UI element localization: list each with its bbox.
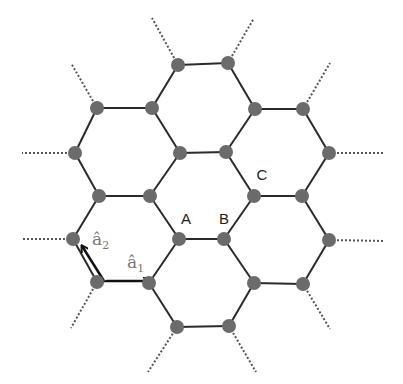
dangling-bond xyxy=(228,18,254,63)
lattice-bond xyxy=(150,196,179,239)
lattice-site xyxy=(173,146,187,160)
site-label-A: A xyxy=(181,210,191,227)
site-label-B: B xyxy=(219,210,229,227)
lattice-site xyxy=(221,56,235,70)
dangling-bond xyxy=(71,63,97,108)
lattice-site xyxy=(172,232,186,246)
lattice-site xyxy=(170,320,184,334)
lattice-site xyxy=(92,189,106,203)
lattice-site xyxy=(222,319,236,333)
lattice-bond xyxy=(224,239,254,283)
lattice-site xyxy=(322,233,336,247)
lattice-site xyxy=(296,277,310,291)
lattice-site xyxy=(68,146,82,160)
vector-a1-label: â1 xyxy=(127,252,144,275)
lattice-bond xyxy=(303,109,329,153)
lattice-site xyxy=(219,145,233,159)
vector-a2-label: â2 xyxy=(92,229,109,252)
lattice-bond xyxy=(178,63,228,65)
site-labels: â1â2ABC xyxy=(92,166,268,275)
lattice-bond xyxy=(226,152,254,196)
lattice-bond xyxy=(152,65,178,108)
lattice-bond xyxy=(229,283,254,326)
lattice-bond xyxy=(302,153,329,196)
dangling-bond xyxy=(148,327,177,372)
lattice-site xyxy=(90,101,104,115)
lattice-site xyxy=(171,58,185,72)
lattice-bond xyxy=(177,326,229,327)
lattice-site xyxy=(296,102,310,116)
lattice-bond xyxy=(75,153,99,196)
dangling-bond xyxy=(303,284,330,329)
dangling-bond xyxy=(303,63,330,109)
lattice-site xyxy=(90,275,104,289)
lattice-bond xyxy=(228,63,255,109)
dangling-bond xyxy=(229,326,256,372)
site-label-C: C xyxy=(257,166,268,183)
lattice-site xyxy=(217,232,231,246)
lattice-bond xyxy=(302,196,329,240)
lattice-site xyxy=(143,189,157,203)
dangling-bonds xyxy=(22,18,385,372)
lattice-bond xyxy=(150,153,180,196)
dangling-bond xyxy=(329,240,385,241)
lattice-bond xyxy=(149,283,177,327)
lattice-bond xyxy=(303,240,329,284)
lattice-bond xyxy=(75,108,97,153)
lattice-bond xyxy=(226,109,255,152)
lattice-bond xyxy=(152,108,180,153)
lattice-site xyxy=(322,146,336,160)
lattice-bonds xyxy=(73,63,329,327)
lattice-bond xyxy=(254,283,303,284)
lattice-site xyxy=(142,276,156,290)
lattice-site xyxy=(66,232,80,246)
lattice-site xyxy=(295,189,309,203)
lattice-site xyxy=(247,276,261,290)
lattice-site xyxy=(145,101,159,115)
dangling-bond xyxy=(71,282,97,328)
lattice-site xyxy=(248,102,262,116)
honeycomb-lattice-diagram: â1â2ABC xyxy=(0,0,403,384)
dangling-bond xyxy=(152,18,178,65)
lattice-bond xyxy=(149,239,179,283)
lattice-site xyxy=(247,189,261,203)
